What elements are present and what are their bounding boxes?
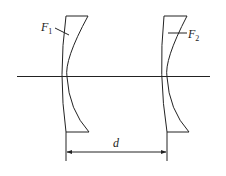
lens-diagram: F1 F2 d bbox=[0, 0, 226, 176]
lens-1-label: F1 bbox=[40, 20, 52, 36]
lens-2-label: F2 bbox=[187, 27, 199, 43]
dimension-arrow-right bbox=[161, 150, 167, 154]
lens-1-leader bbox=[55, 28, 69, 35]
dimension-label: d bbox=[113, 136, 120, 150]
dimension-arrow-left bbox=[67, 150, 73, 154]
